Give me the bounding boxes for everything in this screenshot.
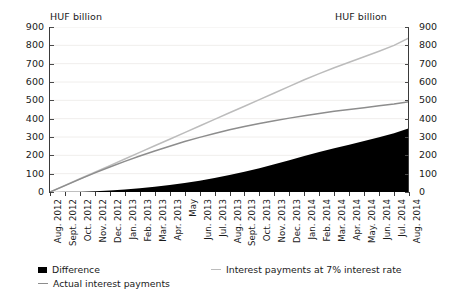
series-difference-area [50, 128, 409, 192]
y-axis-tick-label-right: 400 [419, 114, 459, 124]
y-axis-tick-right [405, 100, 409, 101]
y-axis-tick-left [50, 100, 54, 101]
y-axis-left [49, 27, 50, 193]
x-axis-tick-label: Jul. 2013 [219, 199, 228, 237]
y-axis-tick-label-left: 900 [4, 22, 44, 32]
x-axis-tick [394, 192, 395, 196]
y-axis-tick-label-right: 600 [419, 77, 459, 87]
x-axis-tick [259, 192, 260, 196]
legend-item-actual[interactable]: Actual interest payments [38, 278, 170, 289]
x-axis-tick [230, 192, 231, 196]
y-axis-tick-left [50, 174, 54, 175]
y-axis-tick-label-right: 200 [419, 150, 459, 160]
x-axis-tick-label: Jan. 2013 [129, 199, 138, 240]
chart-container: HUF billion HUF billion 0100200300400500… [0, 0, 463, 305]
y-axis-tick-label-left: 0 [4, 187, 44, 197]
legend-item-seven-percent[interactable]: Interest payments at 7% interest rate [211, 264, 402, 275]
y-axis-tick-right [405, 192, 409, 193]
y-axis-tick-right [405, 27, 409, 28]
x-axis-tick [349, 192, 350, 196]
x-axis-tick-label: Nov. 2012 [99, 199, 108, 242]
legend-label-difference: Difference [52, 264, 100, 275]
x-axis-tick [95, 192, 96, 196]
x-axis-tick [110, 192, 111, 196]
x-axis-tick-label: Aug. 2012 [54, 199, 63, 243]
x-axis-tick-label: May. 2014 [368, 199, 377, 243]
y-axis-tick-left [50, 155, 54, 156]
chart-svg [50, 27, 409, 192]
x-axis-tick-label: Nov. 2013 [278, 199, 287, 242]
legend-row-1: Difference Interest payments at 7% inter… [38, 264, 438, 278]
x-axis-tick-label: Jun. 2013 [204, 199, 213, 240]
y-axis-tick-label-left: 500 [4, 95, 44, 105]
y-axis-tick-label-left: 700 [4, 59, 44, 69]
x-axis-tick-label: Feb. 2014 [323, 199, 332, 242]
x-axis-tick-label: Mar. 2013 [159, 199, 168, 242]
x-axis-tick-label: Jan. 2014 [308, 199, 317, 240]
y-axis-tick-label-right: 900 [419, 22, 459, 32]
y-axis-tick-right [405, 64, 409, 65]
y-axis-tick-label-right: 800 [419, 40, 459, 50]
y-axis-tick-label-right: 300 [419, 132, 459, 142]
y-axis-tick-left [50, 82, 54, 83]
x-axis-tick [319, 192, 320, 196]
legend-swatch-seven-percent-icon [211, 269, 221, 271]
x-axis-tick [125, 192, 126, 196]
y-axis-tick-right [405, 45, 409, 46]
y-axis-tick-left [50, 119, 54, 120]
x-axis-tick-label: Sept. 2012 [69, 199, 78, 246]
y-axis-tick-right [405, 119, 409, 120]
y-axis-tick-label-left: 600 [4, 77, 44, 87]
x-axis-tick-label: Dec. 2012 [114, 199, 123, 243]
y-axis-tick-left [50, 45, 54, 46]
x-axis-tick [364, 192, 365, 196]
y-axis-tick-left [50, 137, 54, 138]
x-axis-tick [274, 192, 275, 196]
legend-label-seven-percent: Interest payments at 7% interest rate [226, 264, 402, 275]
x-axis-tick-label: Jul. 2014 [398, 199, 407, 237]
y-axis-tick-label-right: 0 [419, 187, 459, 197]
y-axis-tick-label-left: 800 [4, 40, 44, 50]
x-axis-tick [409, 192, 410, 196]
x-axis-tick-label: Mar. 2014 [338, 199, 347, 242]
x-axis-tick-label: Aug. 2013 [234, 199, 243, 243]
y-axis-tick-left [50, 27, 54, 28]
y-axis-tick-right [405, 155, 409, 156]
legend-label-actual: Actual interest payments [53, 278, 170, 289]
y-axis-tick-right [405, 82, 409, 83]
y-axis-tick-right [405, 174, 409, 175]
x-axis-tick [140, 192, 141, 196]
y-axis-tick-label-left: 400 [4, 114, 44, 124]
x-axis-tick [50, 192, 51, 196]
x-axis-tick [170, 192, 171, 196]
x-axis-tick [244, 192, 245, 196]
x-axis-tick [304, 192, 305, 196]
x-axis-tick-label: Oct. 2013 [263, 199, 272, 241]
legend-item-difference[interactable]: Difference [38, 264, 100, 275]
x-axis-tick-label: Apr. 2013 [174, 199, 183, 240]
legend-row-2: Actual interest payments [38, 278, 438, 292]
x-axis-tick [185, 192, 186, 196]
y-axis-right [408, 27, 409, 193]
y-axis-unit-left: HUF billion [50, 11, 102, 22]
legend-swatch-actual-icon [38, 283, 48, 285]
x-axis-tick-label: Oct. 2012 [84, 199, 93, 241]
y-axis-tick-label-right: 700 [419, 59, 459, 69]
y-axis-unit-right: HUF billion [335, 11, 387, 22]
x-axis-tick [80, 192, 81, 196]
x-axis-tick-label: Aug. 2014 [413, 199, 422, 243]
x-axis-tick [65, 192, 66, 196]
y-axis-tick-label-left: 300 [4, 132, 44, 142]
plot-area [50, 27, 409, 192]
x-axis-tick-label: Feb. 2013 [144, 199, 153, 242]
x-axis-tick-label: May [189, 199, 198, 217]
x-axis-tick-label: Apr. 2014 [353, 199, 362, 240]
x-axis-tick [379, 192, 380, 196]
y-axis-tick-label-right: 100 [419, 169, 459, 179]
y-axis-tick-label-left: 100 [4, 169, 44, 179]
x-axis-tick [200, 192, 201, 196]
x-axis-tick-label: Dec. 2013 [293, 199, 302, 243]
x-axis-tick [289, 192, 290, 196]
y-axis-tick-left [50, 64, 54, 65]
x-axis-tick-label: Jun. 2014 [383, 199, 392, 240]
